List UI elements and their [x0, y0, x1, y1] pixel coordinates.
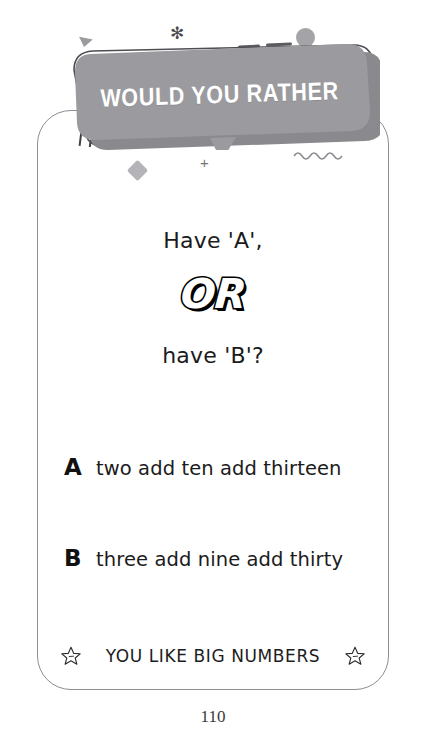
question-line-2: have 'B'? — [0, 343, 426, 368]
banner: WOULD YOU RATHER — [60, 38, 380, 150]
question-line-1: Have 'A', — [0, 228, 426, 253]
option-row-a[interactable]: A two add ten add thirteen — [64, 454, 374, 480]
option-a-text: two add ten add thirteen — [96, 457, 342, 480]
page-canvas: ✻ + WOULD YOU RATHER Have 'A', OR — [0, 0, 426, 745]
option-a-letter: A — [64, 454, 96, 480]
banner-title-wrap: WOULD YOU RATHER — [60, 38, 380, 150]
question-connector-wrap: OR — [0, 270, 426, 318]
star-icon — [344, 645, 366, 667]
page-number: 110 — [0, 707, 426, 727]
question-connector: OR — [179, 270, 247, 318]
banner-title: WOULD YOU RATHER — [101, 76, 340, 113]
option-b-letter: B — [64, 545, 96, 571]
card-footer: YOU LIKE BIG NUMBERS — [60, 645, 366, 667]
star-icon — [60, 645, 82, 667]
question-card — [37, 110, 389, 690]
option-b-text: three add nine add thirty — [96, 548, 343, 571]
footer-label: YOU LIKE BIG NUMBERS — [82, 646, 344, 666]
option-row-b[interactable]: B three add nine add thirty — [64, 545, 374, 571]
